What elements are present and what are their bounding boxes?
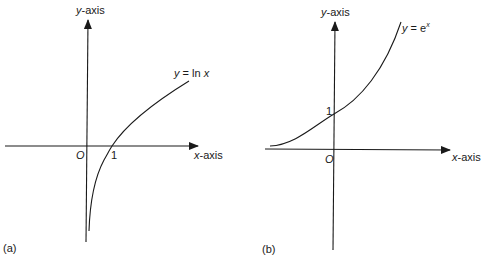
exp-curve bbox=[270, 22, 401, 146]
panel-a-origin-label: O bbox=[76, 150, 85, 161]
panel-b-caption: (b) bbox=[262, 244, 275, 255]
panel-b-x-axis-label: x-axis bbox=[452, 152, 481, 163]
panel-b-y-axis bbox=[333, 22, 335, 250]
panel-a-graph bbox=[5, 20, 198, 242]
panel-b-tick-1: 1 bbox=[326, 106, 332, 117]
eq: = ln bbox=[180, 67, 204, 79]
ln-curve-label: y = ln x bbox=[174, 68, 209, 79]
panel-b-y-axis-label: y-axis bbox=[321, 7, 350, 18]
ln-curve bbox=[89, 81, 189, 231]
arg: x bbox=[204, 67, 210, 79]
panel-a-y-axis bbox=[86, 20, 88, 242]
diagram-canvas: y-axis y = ln x O 1 x-axis (a) y-axis y … bbox=[0, 0, 489, 265]
panel-a-x-axis-label: x-axis bbox=[194, 150, 223, 161]
panel-b-graph bbox=[265, 22, 450, 250]
axis-suffix: -axis bbox=[82, 4, 105, 16]
panel-b-origin-label: O bbox=[325, 154, 334, 165]
panel-a-y-axis-label: y-axis bbox=[76, 5, 105, 16]
panel-b-x-axis bbox=[265, 149, 450, 150]
panel-a-tick-1: 1 bbox=[111, 150, 117, 161]
axis-suffix: -axis bbox=[458, 151, 481, 163]
panel-a-caption: (a) bbox=[3, 243, 16, 254]
axis-suffix: -axis bbox=[327, 6, 350, 18]
graphs-svg bbox=[0, 0, 489, 265]
exp-curve-label: y = ex bbox=[402, 21, 430, 34]
eq: = e bbox=[408, 22, 427, 34]
axis-suffix: -axis bbox=[200, 149, 223, 161]
exponent: x bbox=[426, 21, 430, 28]
